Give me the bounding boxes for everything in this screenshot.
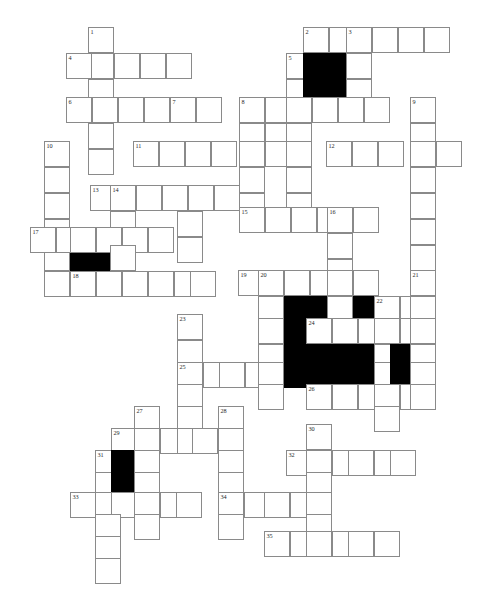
grid-answer-cell[interactable]	[424, 27, 450, 53]
grid-answer-cell[interactable]	[410, 318, 436, 344]
grid-answer-cell[interactable]	[239, 167, 265, 193]
grid-answer-cell[interactable]: 14	[110, 185, 136, 211]
grid-answer-cell[interactable]	[306, 531, 332, 557]
grid-answer-cell[interactable]	[332, 384, 358, 410]
grid-answer-cell[interactable]	[332, 318, 358, 344]
grid-answer-cell[interactable]	[284, 270, 310, 296]
grid-answer-cell[interactable]	[436, 141, 462, 167]
grid-answer-cell[interactable]	[286, 167, 312, 193]
grid-answer-cell[interactable]: 20	[258, 270, 284, 296]
grid-answer-cell[interactable]	[148, 227, 174, 253]
grid-answer-cell[interactable]	[136, 185, 162, 211]
grid-answer-cell[interactable]	[88, 123, 114, 149]
grid-answer-cell[interactable]: 11	[133, 141, 159, 167]
grid-answer-cell[interactable]: 18	[70, 271, 96, 297]
grid-answer-cell[interactable]	[372, 27, 398, 53]
grid-answer-cell[interactable]	[192, 428, 218, 454]
grid-answer-cell[interactable]	[118, 97, 144, 123]
grid-answer-cell[interactable]	[219, 362, 245, 388]
grid-answer-cell[interactable]	[398, 27, 424, 53]
grid-answer-cell[interactable]: 26	[306, 384, 332, 410]
grid-answer-cell[interactable]	[348, 531, 374, 557]
grid-answer-cell[interactable]	[291, 207, 317, 233]
grid-answer-cell[interactable]: 7	[170, 97, 196, 123]
grid-answer-cell[interactable]: 6	[66, 97, 92, 123]
grid-answer-cell[interactable]	[134, 514, 160, 540]
grid-answer-cell[interactable]: 4	[66, 53, 92, 79]
grid-answer-cell[interactable]	[286, 141, 312, 167]
grid-answer-cell[interactable]: 30	[306, 424, 332, 450]
grid-answer-cell[interactable]	[190, 271, 216, 297]
grid-answer-cell[interactable]: 8	[239, 97, 265, 123]
grid-answer-cell[interactable]	[410, 384, 436, 410]
grid-answer-cell[interactable]	[176, 492, 202, 518]
grid-answer-cell[interactable]	[188, 185, 214, 211]
grid-answer-cell[interactable]	[378, 141, 404, 167]
grid-answer-cell[interactable]	[390, 450, 416, 476]
grid-answer-cell[interactable]	[144, 97, 170, 123]
grid-answer-cell[interactable]	[218, 514, 244, 540]
grid-answer-cell[interactable]	[410, 167, 436, 193]
grid-answer-cell[interactable]	[327, 233, 353, 259]
grid-answer-cell[interactable]: 3	[346, 27, 372, 53]
grid-answer-cell[interactable]	[239, 141, 265, 167]
grid-answer-cell[interactable]	[88, 149, 114, 175]
grid-answer-cell[interactable]: 35	[264, 531, 290, 557]
grid-answer-cell[interactable]: 9	[410, 97, 436, 123]
grid-answer-cell[interactable]	[410, 245, 436, 271]
grid-answer-cell[interactable]	[166, 53, 192, 79]
grid-answer-cell[interactable]: 23	[177, 314, 203, 340]
grid-answer-cell[interactable]: 33	[70, 492, 96, 518]
grid-answer-cell[interactable]	[96, 271, 122, 297]
grid-answer-cell[interactable]: 1	[88, 27, 114, 53]
grid-answer-cell[interactable]	[114, 53, 140, 79]
grid-answer-cell[interactable]	[110, 245, 136, 271]
clue-number: 7	[173, 98, 176, 106]
grid-answer-cell[interactable]	[346, 53, 372, 79]
grid-answer-cell[interactable]	[162, 185, 188, 211]
grid-answer-cell[interactable]	[265, 207, 291, 233]
grid-answer-cell[interactable]	[338, 97, 364, 123]
grid-answer-cell[interactable]: 21	[410, 270, 436, 296]
grid-answer-cell[interactable]	[70, 227, 96, 253]
grid-answer-cell[interactable]	[177, 211, 203, 237]
grid-answer-cell[interactable]	[196, 97, 222, 123]
grid-answer-cell[interactable]: 17	[30, 227, 56, 253]
grid-answer-cell[interactable]	[353, 207, 379, 233]
grid-answer-cell[interactable]	[410, 219, 436, 245]
grid-answer-cell[interactable]	[258, 384, 284, 410]
grid-answer-cell[interactable]: 24	[306, 318, 332, 344]
grid-answer-cell[interactable]	[286, 97, 312, 123]
grid-answer-cell[interactable]	[410, 193, 436, 219]
grid-answer-cell[interactable]	[264, 492, 290, 518]
grid-answer-cell[interactable]	[312, 97, 338, 123]
grid-answer-cell[interactable]	[177, 237, 203, 263]
grid-answer-cell[interactable]	[122, 271, 148, 297]
grid-answer-cell[interactable]	[364, 97, 390, 123]
grid-answer-cell[interactable]	[140, 53, 166, 79]
grid-answer-cell[interactable]	[44, 271, 70, 297]
grid-answer-cell[interactable]	[258, 318, 284, 344]
grid-answer-cell[interactable]	[352, 141, 378, 167]
grid-answer-cell[interactable]	[214, 185, 240, 211]
grid-answer-cell[interactable]	[148, 271, 174, 297]
grid-answer-cell[interactable]	[44, 193, 70, 219]
grid-answer-cell[interactable]: 12	[326, 141, 352, 167]
grid-answer-cell[interactable]: 10	[44, 141, 70, 167]
grid-answer-cell[interactable]	[327, 270, 353, 296]
grid-answer-cell[interactable]	[348, 450, 374, 476]
grid-answer-cell[interactable]	[44, 167, 70, 193]
grid-answer-cell[interactable]	[211, 141, 237, 167]
grid-answer-cell[interactable]	[159, 141, 185, 167]
grid-answer-cell[interactable]	[374, 318, 400, 344]
grid-answer-cell[interactable]: 15	[239, 207, 265, 233]
grid-answer-cell[interactable]	[353, 270, 379, 296]
grid-answer-cell[interactable]: 16	[327, 207, 353, 233]
grid-answer-cell[interactable]	[185, 141, 211, 167]
grid-answer-cell[interactable]	[374, 531, 400, 557]
grid-answer-cell[interactable]	[410, 141, 436, 167]
grid-answer-cell[interactable]	[92, 97, 118, 123]
grid-answer-cell[interactable]	[95, 558, 121, 584]
grid-answer-cell[interactable]	[374, 406, 400, 432]
grid-answer-cell[interactable]: 2	[303, 27, 329, 53]
